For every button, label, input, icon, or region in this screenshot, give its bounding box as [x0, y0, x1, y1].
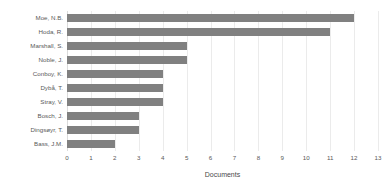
documents-by-author-bar-chart: Moe, N.B.Hoda, R.Marshall, S.Noble, J.Co… — [0, 0, 386, 192]
bar-row — [67, 123, 378, 137]
bar[interactable] — [67, 14, 354, 22]
bar[interactable] — [67, 42, 187, 50]
bar[interactable] — [67, 112, 139, 120]
bar-row — [67, 95, 378, 109]
x-axis-tick-9: 9 — [281, 153, 284, 163]
bar-row — [67, 39, 378, 53]
y-axis-label: Hoda, R. — [39, 25, 63, 39]
x-axis-tick-4: 4 — [161, 153, 164, 163]
bar-row — [67, 25, 378, 39]
y-axis-label: Bosch, J. — [38, 109, 63, 123]
x-axis-tick-3: 3 — [137, 153, 140, 163]
x-axis-tick-1: 1 — [89, 153, 92, 163]
bar[interactable] — [67, 28, 330, 36]
y-axis-label: Dybå, T. — [40, 81, 63, 95]
y-axis-label: Noble, J. — [39, 53, 63, 67]
bar-row — [67, 67, 378, 81]
x-axis-title: Documents — [67, 171, 378, 178]
x-axis-tick-8: 8 — [257, 153, 260, 163]
bar-row — [67, 53, 378, 67]
y-axis-label: Bass, J.M. — [34, 137, 63, 151]
bar-row — [67, 109, 378, 123]
bar-row — [67, 137, 378, 151]
bar[interactable] — [67, 84, 163, 92]
bar[interactable] — [67, 126, 139, 134]
x-axis-tick-5: 5 — [185, 153, 188, 163]
x-axis-tick-labels: 012345678910111213 — [67, 153, 378, 165]
y-axis-label: Dingsøyr, T. — [30, 123, 63, 137]
gridline-13 — [378, 11, 379, 151]
bar[interactable] — [67, 98, 163, 106]
x-axis-tick-10: 10 — [303, 153, 310, 163]
y-axis-category-labels: Moe, N.B.Hoda, R.Marshall, S.Noble, J.Co… — [0, 11, 63, 151]
y-axis-label: Conboy, K. — [33, 67, 63, 81]
x-axis-tick-0: 0 — [65, 153, 68, 163]
y-axis-label: Marshall, S. — [30, 39, 63, 53]
bar[interactable] — [67, 140, 115, 148]
bar-row — [67, 81, 378, 95]
y-axis-label: Moe, N.B. — [35, 11, 63, 25]
y-axis-label: Stray, V. — [40, 95, 63, 109]
bar[interactable] — [67, 70, 163, 78]
x-axis-tick-2: 2 — [113, 153, 116, 163]
x-axis-tick-6: 6 — [209, 153, 212, 163]
x-axis-tick-7: 7 — [233, 153, 236, 163]
plot-area — [67, 11, 378, 151]
x-axis-tick-13: 13 — [375, 153, 382, 163]
bar-row — [67, 11, 378, 25]
bar[interactable] — [67, 56, 187, 64]
x-axis-tick-12: 12 — [351, 153, 358, 163]
x-axis-tick-11: 11 — [327, 153, 333, 163]
